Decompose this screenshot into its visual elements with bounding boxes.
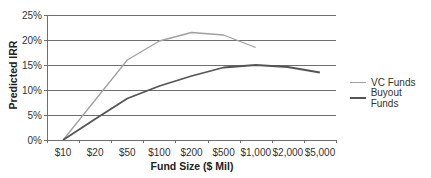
series-line-buyout-funds [63,65,320,140]
legend-swatch-buyout [350,97,366,99]
y-tick-label: 25% [22,10,42,21]
x-tick-label: $100 [148,147,171,158]
legend-swatch-vc [350,82,366,83]
legend-label-buyout: Buyout Funds [371,87,431,109]
x-tick-label: $50 [119,147,136,158]
x-tick-label: $1,000 [240,147,271,158]
legend-item-buyout-funds: Buyout Funds [350,90,431,106]
y-tick-label: 0% [28,135,43,146]
x-tick-label: $500 [212,147,235,158]
x-tick-labels: $10$20$50$100$200$500$1,000$2,000$5,000 [55,147,336,158]
x-tick-label: $200 [180,147,203,158]
y-tick-label: 10% [22,85,42,96]
legend-label-vc: VC Funds [371,77,415,88]
x-axis-title: Fund Size ($ Mil) [151,160,234,172]
y-tick-label: 20% [22,35,42,46]
x-tick-label: $5,000 [305,147,336,158]
x-tick-label: $10 [55,147,72,158]
data-series [63,33,320,141]
legend: VC Funds Buyout Funds [350,74,431,106]
x-tick-label: $20 [87,147,104,158]
y-tick-labels: 0%5%10%15%20%25% [22,10,42,146]
x-tick-label: $2,000 [273,147,304,158]
y-tick-label: 5% [28,110,43,121]
y-tick-label: 15% [22,60,42,71]
y-axis-title: Predicted IRR [7,40,19,109]
